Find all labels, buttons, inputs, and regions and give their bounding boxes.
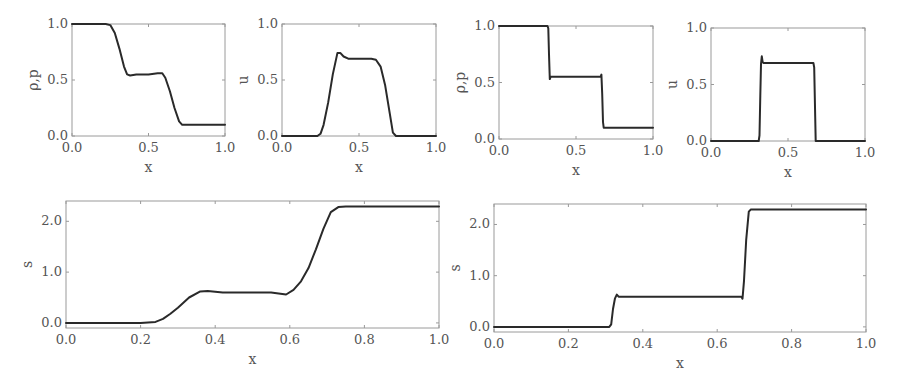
axes-frame xyxy=(499,26,653,139)
data-line-rho-p xyxy=(72,24,225,125)
y-tick-label: 0.5 xyxy=(47,72,68,87)
subplot-bottom-right-entropy: 0.00.20.40.60.81.00.01.02.0xs xyxy=(447,204,876,371)
y-tick-label: 1.0 xyxy=(47,16,68,31)
x-tick-label: 0.8 xyxy=(781,336,802,351)
axes-frame xyxy=(66,201,439,328)
x-tick-label: 0.2 xyxy=(130,332,151,347)
y-tick-label: 0.0 xyxy=(41,315,62,330)
y-axis-label: u xyxy=(235,75,251,84)
x-tick-label: 0.6 xyxy=(707,336,728,351)
x-tick-label: 0.5 xyxy=(349,140,370,155)
y-tick-label: 0.5 xyxy=(686,77,707,92)
axes-frame xyxy=(282,24,436,136)
x-tick-label: 0.5 xyxy=(566,143,587,158)
data-line-s xyxy=(66,207,439,323)
x-tick-label: 0.8 xyxy=(354,332,375,347)
x-tick-label: 1.0 xyxy=(855,145,876,160)
x-axis-label: x xyxy=(355,159,363,175)
x-tick-label: 0.5 xyxy=(138,140,159,155)
y-tick-label: 0.5 xyxy=(474,75,495,90)
x-tick-label: 0.2 xyxy=(558,336,579,351)
y-tick-label: 0.0 xyxy=(257,128,278,143)
plot-canvas: 0.00.51.00.00.51.0xρ,p0.00.51.00.00.51.0… xyxy=(0,0,908,387)
subplot-bottom-left-entropy: 0.00.20.40.60.81.00.01.02.0xs xyxy=(19,201,449,367)
axes-frame xyxy=(72,24,225,136)
x-tick-label: 0.4 xyxy=(632,336,653,351)
y-tick-label: 1.0 xyxy=(686,20,707,35)
y-tick-label: 2.0 xyxy=(41,213,62,228)
x-axis-label: x xyxy=(572,162,580,178)
x-tick-label: 0.5 xyxy=(778,145,799,160)
data-line-s xyxy=(494,210,866,327)
y-tick-label: 1.0 xyxy=(41,264,62,279)
x-tick-label: 0.6 xyxy=(279,332,300,347)
x-tick-label: 0.0 xyxy=(56,332,77,347)
y-tick-label: 0.0 xyxy=(469,319,490,334)
data-line-u xyxy=(711,56,865,141)
y-tick-label: 1.0 xyxy=(474,18,495,33)
subplot-top-left-density: 0.00.51.00.00.51.0xρ,p xyxy=(25,16,235,175)
axes-frame xyxy=(494,204,866,332)
figure: 0.00.51.00.00.51.0xρ,p0.00.51.00.00.51.0… xyxy=(0,0,908,387)
data-line-rho-p xyxy=(499,26,653,128)
x-axis-label: x xyxy=(145,159,153,175)
y-tick-label: 0.5 xyxy=(257,72,278,87)
x-axis-label: x xyxy=(249,351,257,367)
x-tick-label: 1.0 xyxy=(856,336,877,351)
x-tick-label: 1.0 xyxy=(429,332,450,347)
subplot-top-right-density: 0.00.51.00.00.51.0xρ,p xyxy=(452,18,663,178)
x-tick-label: 1.0 xyxy=(215,140,236,155)
axes-frame xyxy=(711,28,865,141)
y-axis-label: s xyxy=(19,261,35,268)
x-axis-label: x xyxy=(784,164,792,180)
x-tick-label: 0.0 xyxy=(484,336,505,351)
y-axis-label: s xyxy=(447,264,463,271)
x-tick-label: 1.0 xyxy=(643,143,664,158)
y-tick-label: 0.0 xyxy=(686,133,707,148)
y-axis-label: ρ,p xyxy=(452,72,468,94)
x-axis-label: x xyxy=(676,355,684,371)
x-tick-label: 1.0 xyxy=(426,140,447,155)
y-tick-label: 0.0 xyxy=(47,128,68,143)
subplot-top-left-velocity: 0.00.51.00.00.51.0xu xyxy=(235,16,446,175)
y-tick-label: 2.0 xyxy=(469,216,490,231)
data-line-u xyxy=(282,53,436,136)
y-axis-label: u xyxy=(664,80,680,89)
y-axis-label: ρ,p xyxy=(25,69,41,91)
y-tick-label: 1.0 xyxy=(257,16,278,31)
subplot-top-right-velocity: 0.00.51.00.00.51.0xu xyxy=(664,20,875,180)
x-tick-label: 0.4 xyxy=(205,332,226,347)
y-tick-label: 0.0 xyxy=(474,131,495,146)
y-tick-label: 1.0 xyxy=(469,268,490,283)
